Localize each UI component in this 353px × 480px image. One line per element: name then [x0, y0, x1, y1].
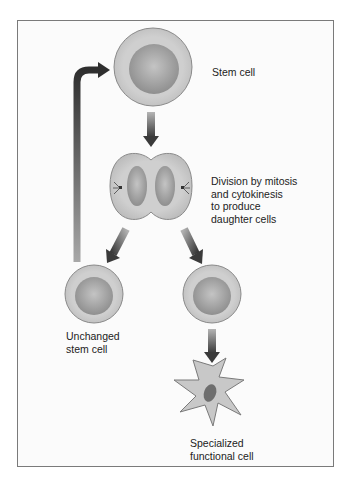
- division-label-line: Division by mitosis: [211, 175, 297, 188]
- return-arrow-icon: [77, 62, 110, 262]
- division-label-line: and cytokinesis: [211, 188, 297, 201]
- specialized-cell-label: Specialized functional cell: [190, 437, 254, 462]
- stem-cell-icon: [114, 28, 192, 106]
- diagram-artwork: [0, 0, 353, 480]
- arrow-down-icon: [143, 112, 159, 147]
- unchanged-label-line: Unchanged: [66, 330, 120, 343]
- unchanged-label-line: stem cell: [66, 343, 120, 356]
- arrow-differentiate-icon: [204, 329, 220, 363]
- daughter-cell-icon: [183, 265, 241, 323]
- specialized-cell-icon: [174, 358, 244, 426]
- division-label-line: to produce: [211, 200, 297, 213]
- division-label: Division by mitosis and cytokinesis to p…: [211, 175, 297, 225]
- unchanged-stem-cell-icon: [65, 265, 123, 323]
- specialized-label-line: Specialized: [190, 437, 254, 450]
- arrow-left-daughter-icon: [106, 229, 126, 263]
- specialized-label-line: functional cell: [190, 450, 254, 463]
- arrow-right-daughter-icon: [184, 229, 203, 264]
- unchanged-stem-cell-label: Unchanged stem cell: [66, 330, 120, 355]
- division-label-line: daughter cells: [211, 213, 297, 226]
- dividing-cell-icon: [110, 153, 192, 219]
- stem-cell-label: Stem cell: [212, 66, 255, 79]
